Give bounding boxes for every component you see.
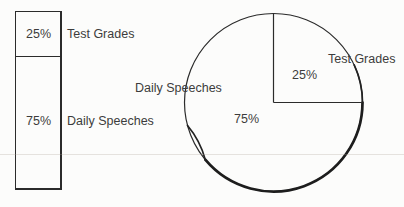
bar-label-test-grades: Test Grades bbox=[67, 27, 134, 41]
bar-label-daily-speeches: Daily Speeches bbox=[67, 114, 154, 128]
scan-artifact-line bbox=[0, 154, 404, 155]
pie-value-test-grades: 25% bbox=[292, 68, 317, 82]
pie-label-daily-speeches: Daily Speeches bbox=[135, 81, 222, 95]
pie-chart-drawing bbox=[180, 8, 370, 198]
figure-canvas: 25% Test Grades 75% Daily Speeches Test … bbox=[0, 0, 404, 207]
bar-segment-divider bbox=[16, 56, 60, 57]
bar-value-test-grades: 25% bbox=[15, 27, 62, 41]
pie-value-daily-speeches: 75% bbox=[234, 112, 259, 126]
pie-shadow-arc-taper-top bbox=[354, 65, 362, 103]
pie-shadow-arc bbox=[205, 103, 362, 192]
bar-value-daily-speeches: 75% bbox=[15, 114, 62, 128]
pie-label-test-grades: Test Grades bbox=[328, 52, 395, 66]
